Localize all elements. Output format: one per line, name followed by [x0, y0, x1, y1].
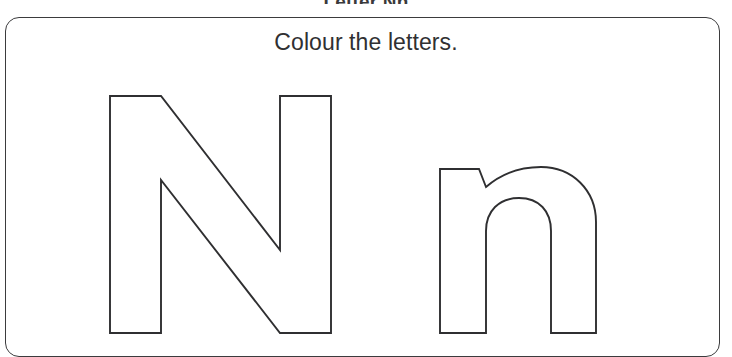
uppercase-n-outline[interactable] — [110, 96, 331, 333]
uppercase-n-path — [110, 96, 331, 333]
lowercase-n-path — [440, 167, 596, 333]
lowercase-n-outline[interactable] — [440, 167, 596, 333]
